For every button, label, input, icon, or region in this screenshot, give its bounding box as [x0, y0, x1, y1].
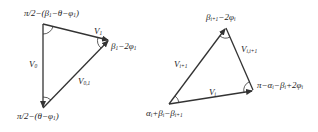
vector-label-vi1: Vi+1: [174, 60, 187, 70]
angle-label-left-bottom: π/2−(θ−φ1): [17, 112, 59, 122]
angle-arc-top: [220, 36, 230, 38]
angle-arc-bottom: [175, 96, 179, 103]
angle-arc-right: [98, 38, 101, 49]
vector-v01: [43, 41, 108, 108]
angle-label-left-right: β1−2φ1: [111, 42, 136, 52]
angle-arc-bottom: [43, 97, 51, 100]
angle-label-left-top: π/2−(β1−θ−φ1): [24, 9, 79, 19]
vector-label-vii1: Vi,i+1: [241, 45, 257, 55]
vector-label-vi: Vi: [209, 88, 216, 98]
angle-label-right-right: π−αi−βi+2φi: [257, 81, 303, 91]
vector-label-v01: V0,1: [78, 77, 90, 87]
angle-label-right-bottom: αi+βi−βi+1: [146, 109, 183, 119]
vector-label-v0: V0: [29, 60, 37, 70]
vector-label-v1: V1: [94, 27, 102, 37]
angle-label-right-top: βi+1−2φi: [206, 13, 235, 23]
angle-arc-top: [43, 27, 53, 35]
angle-arc-right: [244, 82, 249, 93]
